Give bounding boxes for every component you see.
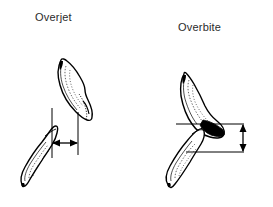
lower-incisor-outline [166,129,204,188]
overjet-arrow-head-right [70,140,78,147]
overbite-panel: Overbite [140,0,273,207]
overbite-arrow-head-top [240,124,247,132]
overbite-arrow [240,124,247,152]
overjet-upper-incisor-tooth [58,59,92,120]
upper-incisor-outline [58,59,92,120]
dental-measurement-figure: Overjet [0,0,273,207]
overbite-diagram [140,0,273,207]
lower-incisor-apex [168,183,171,187]
overbite-arrow-head-bottom [240,144,247,152]
overjet-arrow [52,140,78,147]
overjet-panel: Overjet [0,0,140,207]
overjet-diagram [0,0,140,207]
lower-incisor-apex [22,183,25,187]
overbite-lower-incisor-tooth [166,129,204,188]
